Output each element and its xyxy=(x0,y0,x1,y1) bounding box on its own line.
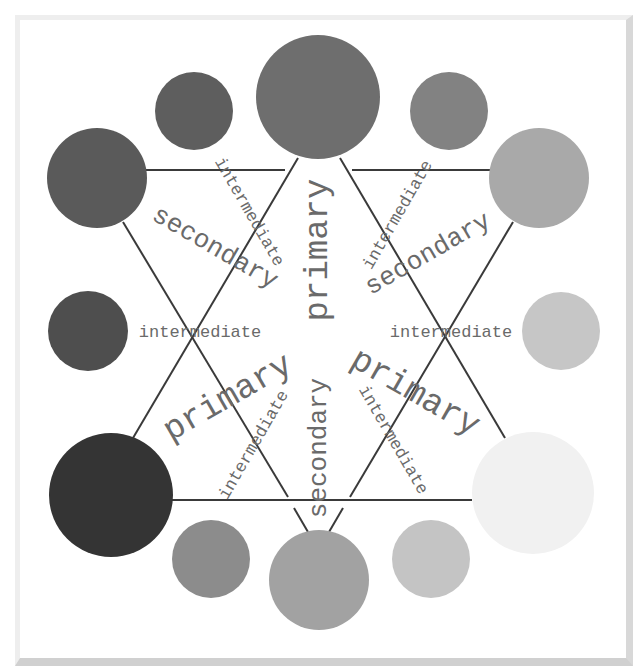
label-secondary-bottom: secondary xyxy=(304,378,334,518)
category-labels: primaryprimaryprimarysecondarysecondarys… xyxy=(139,154,512,518)
label-primary-center-top: primary xyxy=(299,179,337,322)
circle-intermediate-left xyxy=(48,291,128,371)
circle-intermediate-bottom-left xyxy=(172,520,250,598)
circle-secondary-upper-left xyxy=(47,128,147,228)
label-intermediate-right: intermediate xyxy=(390,323,512,342)
circle-secondary-upper-right xyxy=(489,128,589,228)
circle-primary-top xyxy=(256,35,380,159)
circle-intermediate-right xyxy=(522,292,600,370)
circle-intermediate-top-left xyxy=(155,72,233,150)
circle-intermediate-bottom-right xyxy=(392,520,470,598)
circle-intermediate-top-right xyxy=(410,72,488,150)
label-intermediate-left: intermediate xyxy=(139,323,261,342)
color-circles xyxy=(47,35,600,630)
circle-primary-bottom-right xyxy=(472,432,594,554)
circle-secondary-bottom xyxy=(269,530,369,630)
circle-primary-bottom-left xyxy=(49,433,173,557)
